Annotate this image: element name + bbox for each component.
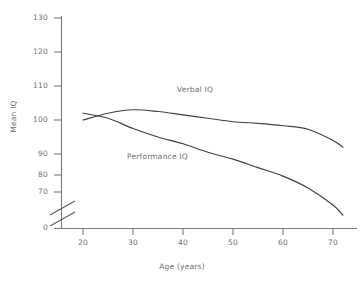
y-tick-label-0: 0 [22,223,48,232]
y-tick-label-120: 120 [22,47,48,56]
y-tick-label-100: 100 [22,115,48,124]
y-axis-ticks [54,18,62,229]
iq-vs-age-line-chart: 130 120 110 100 90 80 70 0 20 30 40 50 6… [0,0,364,285]
y-tick-label-130: 130 [22,13,48,22]
y-tick-label-70: 70 [22,187,48,196]
x-tick-label-50: 50 [220,238,246,247]
y-axis-title: Mean IQ [9,94,18,140]
x-tick-label-60: 60 [270,238,296,247]
x-axis-ticks [83,229,333,236]
x-tick-label-70: 70 [320,238,346,247]
y-axis-break-icon [50,201,75,226]
y-tick-label-80: 80 [22,170,48,179]
series-label-verbal-iq: Verbal IQ [177,85,213,94]
y-tick-label-90: 90 [22,149,48,158]
series-line-verbal-iq [83,110,343,147]
series-label-performance-iq: Performance IQ [127,152,188,161]
x-tick-label-20: 20 [70,238,96,247]
y-tick-label-110: 110 [22,81,48,90]
x-tick-label-40: 40 [170,238,196,247]
x-axis-title: Age (years) [0,262,364,271]
x-tick-label-30: 30 [120,238,146,247]
